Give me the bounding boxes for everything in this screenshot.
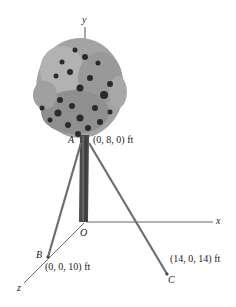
point-C-coords: (14, 0, 14) ft (170, 254, 220, 264)
cable-AB (48, 143, 81, 257)
x-axis-label: x (216, 216, 220, 226)
cable-AC (89, 143, 167, 274)
point-C-label: C (168, 275, 175, 285)
z-axis (24, 223, 84, 283)
point-B-marker (46, 255, 49, 258)
origin-label: O (80, 228, 87, 238)
point-A-label: A (68, 135, 74, 145)
z-axis-label: z (17, 283, 21, 293)
point-B-coords: (0, 0, 10) ft (45, 262, 90, 272)
point-A-coords: (0, 8, 0) ft (93, 135, 133, 145)
y-axis-label: y (82, 15, 86, 25)
tree-canopy (33, 38, 127, 138)
point-B-label: B (36, 250, 42, 260)
